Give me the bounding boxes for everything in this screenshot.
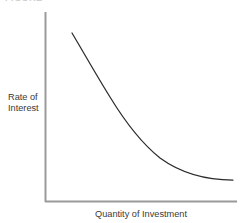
figure-container: FIGURE Rate of Interest Quantity of Inve…	[0, 0, 247, 223]
y-axis-label: Rate of Interest	[8, 92, 48, 114]
investment-demand-curve	[72, 33, 233, 180]
x-axis-label: Quantity of Investment	[45, 209, 237, 220]
y-axis-label-line-1: Rate of	[8, 92, 48, 103]
y-axis-label-line-2: Interest	[8, 103, 48, 114]
